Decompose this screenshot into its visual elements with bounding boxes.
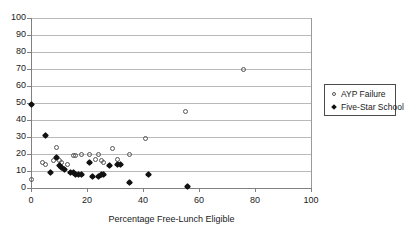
- y-tick-mark: [27, 69, 31, 70]
- grid-line: [31, 137, 311, 138]
- data-point-ayp-failure: [93, 157, 98, 162]
- data-point-ayp-failure: [79, 152, 84, 157]
- plot-right-border: [311, 18, 312, 189]
- legend-label: Five-Star School: [341, 102, 404, 112]
- x-tick-mark: [87, 188, 88, 192]
- y-tick-mark: [27, 86, 31, 87]
- y-tick-mark: [27, 120, 31, 121]
- filled-diamond-marker-icon: [329, 105, 338, 109]
- grid-line: [31, 52, 311, 53]
- y-tick-label: 50: [2, 98, 26, 107]
- x-tick-mark: [311, 188, 312, 192]
- y-tick-label: 80: [2, 47, 26, 56]
- x-tick-label: 0: [16, 195, 46, 205]
- plot-area: [31, 18, 311, 188]
- grid-line: [31, 35, 311, 36]
- y-tick-label: 60: [2, 81, 26, 90]
- y-tick-label: 90: [2, 30, 26, 39]
- y-tick-label: 0: [2, 183, 26, 192]
- y-tick-mark: [27, 52, 31, 53]
- y-tick-label: 100: [2, 13, 26, 22]
- x-tick-mark: [31, 188, 32, 192]
- y-tick-mark: [27, 35, 31, 36]
- grid-line: [31, 86, 311, 87]
- data-point-ayp-failure: [96, 152, 101, 157]
- grid-line: [31, 18, 311, 19]
- data-point-ayp-failure: [43, 162, 48, 167]
- x-tick-label: 60: [184, 195, 214, 205]
- y-tick-mark: [27, 154, 31, 155]
- grid-line: [31, 120, 311, 121]
- x-tick-label: 40: [128, 195, 158, 205]
- y-tick-mark: [27, 137, 31, 138]
- y-tick-mark: [27, 18, 31, 19]
- x-tick-label: 20: [72, 195, 102, 205]
- y-tick-mark: [27, 171, 31, 172]
- legend-label: AYP Failure: [341, 89, 386, 99]
- open-circle-marker-icon: [329, 92, 338, 96]
- legend-item-five-star-school: Five-Star School: [329, 101, 404, 113]
- x-tick-label: 80: [240, 195, 270, 205]
- y-tick-label: 40: [2, 115, 26, 124]
- x-tick-label: 100: [296, 195, 326, 205]
- data-point-ayp-failure: [87, 152, 92, 157]
- legend-item-ayp-failure: AYP Failure: [329, 88, 386, 100]
- data-point-ayp-failure: [241, 67, 246, 72]
- chart-legend: AYP Failure Five-Star School: [324, 84, 396, 116]
- y-tick-label: 20: [2, 149, 26, 158]
- data-point-ayp-failure: [29, 177, 34, 182]
- y-tick-label: 30: [2, 132, 26, 141]
- data-point-ayp-failure: [65, 162, 70, 167]
- x-tick-mark: [199, 188, 200, 192]
- grid-line: [31, 103, 311, 104]
- data-point-ayp-failure: [54, 145, 59, 150]
- y-tick-label: 70: [2, 64, 26, 73]
- scatter-chart: 0102030405060708090100 020406080100 Perc…: [0, 0, 414, 238]
- x-tick-mark: [255, 188, 256, 192]
- grid-line: [31, 69, 311, 70]
- data-point-ayp-failure: [127, 152, 132, 157]
- x-axis-title: Percentage Free-Lunch Eligible: [31, 214, 312, 224]
- x-tick-mark: [143, 188, 144, 192]
- y-tick-label: 10: [2, 166, 26, 175]
- x-axis-line: [31, 188, 312, 189]
- data-point-ayp-failure: [183, 109, 188, 114]
